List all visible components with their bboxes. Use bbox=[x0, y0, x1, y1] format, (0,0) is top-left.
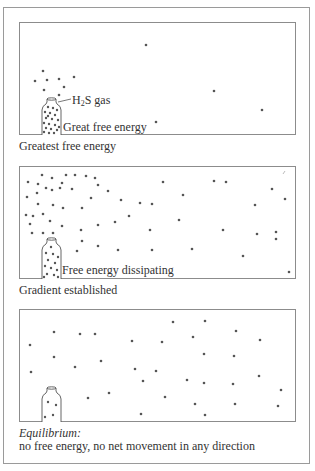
panel-caption: Equilibrium: no free energy, no net move… bbox=[19, 427, 255, 453]
caption-italic-title: Equilibrium: bbox=[19, 426, 81, 440]
panel-inner-label: Great free energy bbox=[63, 121, 147, 133]
caption-description: no free energy, no net movement in any d… bbox=[19, 439, 255, 453]
panel-inner-label: Free energy dissipating bbox=[62, 264, 174, 276]
stray-mark bbox=[283, 171, 285, 174]
h2s-gas-label: H2S gas bbox=[72, 94, 110, 106]
bottle-icon bbox=[42, 238, 61, 279]
panel-greatest-free-energy: H2S gas Great free energy bbox=[19, 22, 296, 135]
label-leader-line bbox=[58, 99, 71, 102]
gas-diffusion-illustration-1 bbox=[20, 23, 297, 136]
panel-equilibrium bbox=[19, 309, 296, 422]
panel-caption: Gradient established bbox=[19, 284, 117, 297]
gas-diffusion-illustration-3 bbox=[20, 310, 297, 423]
panel-gradient-established: Free energy dissipating bbox=[19, 166, 296, 279]
panel-caption: Greatest free energy bbox=[19, 140, 116, 153]
